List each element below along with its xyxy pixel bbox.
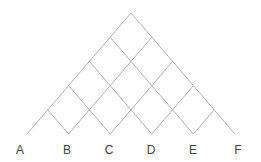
label-c: C [105, 144, 114, 156]
label-a: A [16, 144, 24, 156]
label-d: D [147, 144, 156, 156]
label-b: B [63, 144, 71, 156]
falling-line [48, 110, 69, 134]
rising-line [110, 61, 172, 134]
rising-line [193, 110, 214, 134]
lattice-diagram [0, 0, 261, 162]
outer-right-edge [131, 13, 235, 134]
falling-line [89, 61, 151, 134]
label-e: E [189, 144, 197, 156]
outer-left-edge [27, 13, 131, 134]
label-f: F [234, 144, 241, 156]
